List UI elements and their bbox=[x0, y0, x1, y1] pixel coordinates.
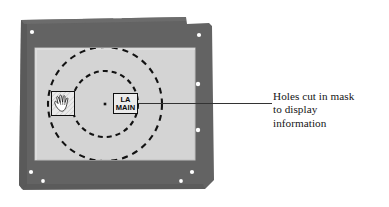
figure-root: LA MAIN bbox=[0, 0, 389, 207]
hole-bottom-right bbox=[190, 170, 194, 174]
mask-plate-shadow-left bbox=[19, 20, 27, 189]
hand-icon-shape bbox=[55, 95, 68, 111]
hole-top-right bbox=[197, 33, 201, 37]
hole-right-upper bbox=[196, 82, 200, 86]
caption-line-1: Holes cut in mask bbox=[273, 90, 387, 103]
la-main-hole-label: LA MAIN bbox=[113, 93, 138, 114]
hole-bottom-left-inner bbox=[41, 179, 45, 183]
mask-plate-shadow-bottom bbox=[22, 184, 205, 189]
center-point-marker bbox=[104, 103, 107, 106]
notch-top-b bbox=[113, 16, 122, 18]
caption-line-3: information bbox=[273, 117, 387, 130]
hole-bottom-left bbox=[29, 170, 33, 174]
caption-holes-cut-in-mask: Holes cut in mask to display information bbox=[273, 90, 387, 130]
notch-top-a bbox=[74, 17, 83, 19]
hand-icon bbox=[52, 92, 74, 115]
hole-bottom-right-inner bbox=[179, 179, 183, 183]
la-main-line2: MAIN bbox=[116, 104, 136, 112]
caption-line-2: to display bbox=[273, 103, 387, 116]
hand-pictogram-hole bbox=[51, 91, 75, 116]
hole-top-left bbox=[30, 30, 34, 34]
hole-right-lower bbox=[196, 128, 200, 132]
